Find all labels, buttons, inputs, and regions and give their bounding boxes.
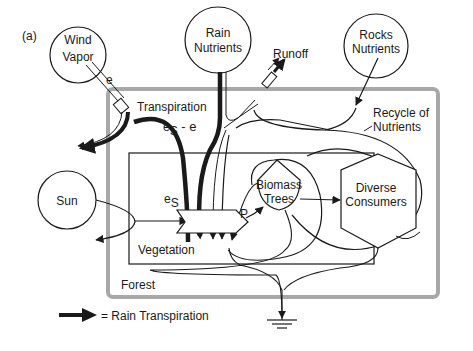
runoff-label: Runoff <box>273 47 309 61</box>
legend-text: = Rain Transpiration <box>101 309 209 323</box>
sun-label: Sun <box>56 194 77 208</box>
runoff-interaction-box <box>262 72 277 88</box>
panel-label: (a) <box>22 29 37 43</box>
rain-nutrients-source <box>185 7 251 73</box>
consumers-label: Consumers <box>345 195 406 209</box>
es-minus-e-label: eS - e <box>163 119 197 138</box>
vapor-interaction-box <box>113 98 128 114</box>
legend-arrow-icon <box>59 308 97 322</box>
rocks-nutrients-label: Nutrients <box>352 42 400 56</box>
producer-pump <box>177 210 248 233</box>
es-label: eS <box>164 192 179 210</box>
rocks-label: Rocks <box>359 28 392 42</box>
rain-label: Rain <box>206 26 231 40</box>
vapor-label: Vapor <box>62 50 93 64</box>
recycle-label-1: Recycle of <box>373 106 430 120</box>
recycle-label-2: Nutrients <box>373 120 421 134</box>
e-label: e <box>106 73 113 87</box>
forest-label: Forest <box>121 278 156 292</box>
trees-label: Trees <box>264 192 294 206</box>
diverse-label: Diverse <box>356 181 397 195</box>
rain-nutrients-label: Nutrients <box>194 41 242 55</box>
p-label: P <box>240 207 248 221</box>
vegetation-label: Vegetation <box>138 243 195 257</box>
biomass-label: Biomass <box>256 178 302 192</box>
energy-systems-diagram: (a) Wind Vapor Rain Nutrients Rocks Nutr… <box>0 0 473 351</box>
heat-sink-icon <box>267 320 297 328</box>
wind-label: Wind <box>64 33 91 47</box>
transpiration-label: Transpiration <box>137 100 207 114</box>
